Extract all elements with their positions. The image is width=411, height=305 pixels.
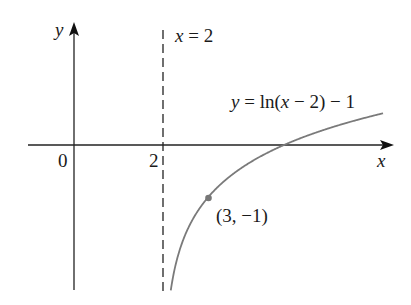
y-axis-label: y — [55, 20, 63, 39]
curve-label: y = ln(x − 2) − 1 — [231, 92, 355, 111]
point-marker — [205, 195, 212, 202]
log-curve — [171, 113, 383, 290]
curve-eq-a: = ln( — [239, 91, 280, 112]
asymptote-eq: = 2 — [183, 25, 213, 46]
asymptote-label: x = 2 — [175, 26, 213, 45]
tick-label-2: 2 — [149, 151, 159, 170]
x-axis-label: x — [377, 151, 385, 170]
point-label: (3, −1) — [216, 206, 268, 225]
curve-eq-b: − 2) − 1 — [289, 91, 355, 112]
curve-x: x — [281, 91, 289, 112]
origin-label: 0 — [58, 151, 68, 170]
graph-figure: y x 0 2 x = 2 y = ln(x − 2) − 1 (3, −1) — [0, 0, 411, 305]
